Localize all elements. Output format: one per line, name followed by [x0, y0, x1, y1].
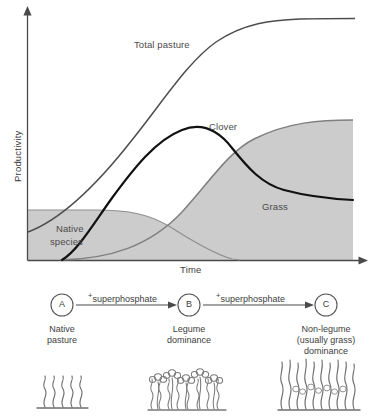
flow-node-c-caption-line2: (usually grass): [278, 335, 374, 346]
flow-node-a-letter: A: [52, 299, 72, 309]
flow-arrow-bc-label: +superphosphate: [216, 291, 285, 304]
flow-node-b-caption-line2: dominance: [149, 335, 229, 346]
flow-arrow-bc-head: [305, 301, 314, 308]
native-grass-tuft-illustration: [37, 376, 88, 408]
clover-dominant-sward-illustration: [148, 369, 226, 410]
superphosphate-text-2: superphosphate: [220, 294, 285, 304]
figure-root: Productivity Time Total pasture Clover G…: [0, 0, 375, 419]
flow-node-b-caption-line1: Legume: [149, 324, 229, 335]
flow-node-b-caption: Legume dominance: [149, 324, 229, 346]
flow-node-c-caption-line3: dominance: [278, 346, 374, 357]
grass-dominant-sward-illustration: [278, 359, 360, 410]
flow-node-a-caption: Native pasture: [22, 324, 102, 346]
superphosphate-text-1: superphosphate: [92, 294, 157, 304]
flow-node-c-letter: C: [316, 299, 336, 309]
flow-node-c-caption-line1: Non-legume: [278, 324, 374, 335]
flow-node-a-caption-line1: Native: [22, 324, 102, 335]
flow-arrow-ab-head: [168, 301, 177, 308]
flow-arrow-ab-label: +superphosphate: [88, 291, 157, 304]
flow-node-b-letter: B: [179, 299, 199, 309]
flow-node-a-caption-line2: pasture: [22, 335, 102, 346]
flow-node-c-caption: Non-legume (usually grass) dominance: [278, 324, 374, 357]
